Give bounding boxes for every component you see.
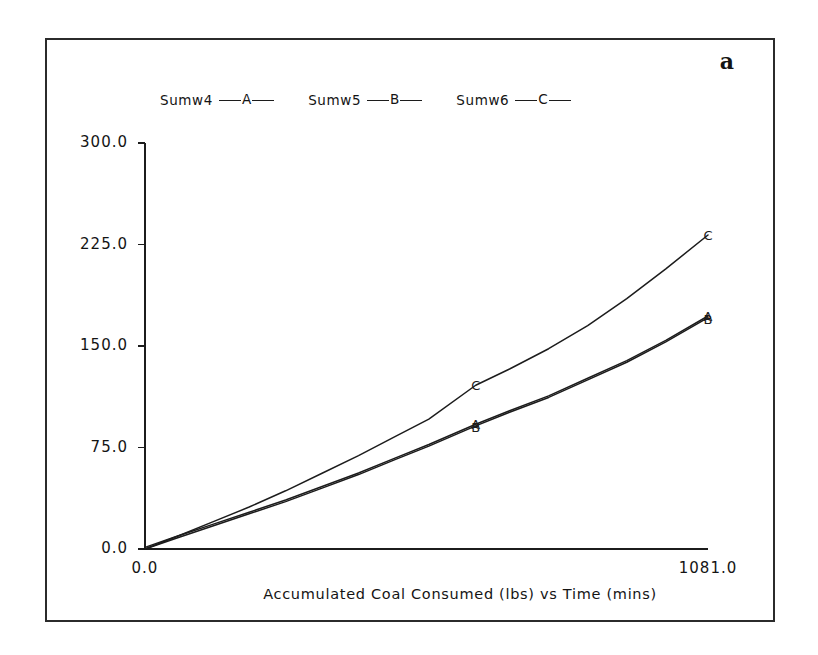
- legend-line-icon: [515, 100, 537, 101]
- panel-letter: a: [712, 50, 742, 72]
- legend-marker-c: C: [538, 93, 547, 107]
- legend-line-icon: [549, 100, 571, 101]
- legend-label-sumw4: Sumw4: [160, 92, 213, 108]
- y-tick-label: 0.0: [36, 541, 128, 556]
- y-tick-label: 75.0: [36, 440, 128, 455]
- legend-line-icon: [367, 100, 389, 101]
- legend-item-sumw5: Sumw5 B: [308, 92, 422, 108]
- legend-line-icon: [252, 100, 274, 101]
- chart-legend: Sumw4 A Sumw5 B Sumw6 C: [160, 88, 680, 112]
- legend-sample-sumw6: C: [515, 93, 570, 107]
- y-tick-label: 150.0: [36, 338, 128, 353]
- legend-line-icon: [400, 100, 422, 101]
- legend-item-sumw4: Sumw4 A: [160, 92, 274, 108]
- legend-sample-sumw5: B: [367, 93, 422, 107]
- legend-marker-a: A: [242, 93, 251, 107]
- legend-marker-b: B: [390, 93, 399, 107]
- legend-sample-sumw4: A: [219, 93, 274, 107]
- y-tick-label: 300.0: [36, 135, 128, 150]
- legend-line-icon: [219, 100, 241, 101]
- legend-label-sumw5: Sumw5: [308, 92, 361, 108]
- figure-frame: [45, 38, 775, 622]
- chart-caption: Accumulated Coal Consumed (lbs) vs Time …: [150, 586, 770, 602]
- y-tick-label: 225.0: [36, 237, 128, 252]
- x-tick-label: 1081.0: [648, 561, 768, 576]
- legend-label-sumw6: Sumw6: [456, 92, 509, 108]
- x-tick-label: 0.0: [85, 561, 205, 576]
- legend-item-sumw6: Sumw6 C: [456, 92, 570, 108]
